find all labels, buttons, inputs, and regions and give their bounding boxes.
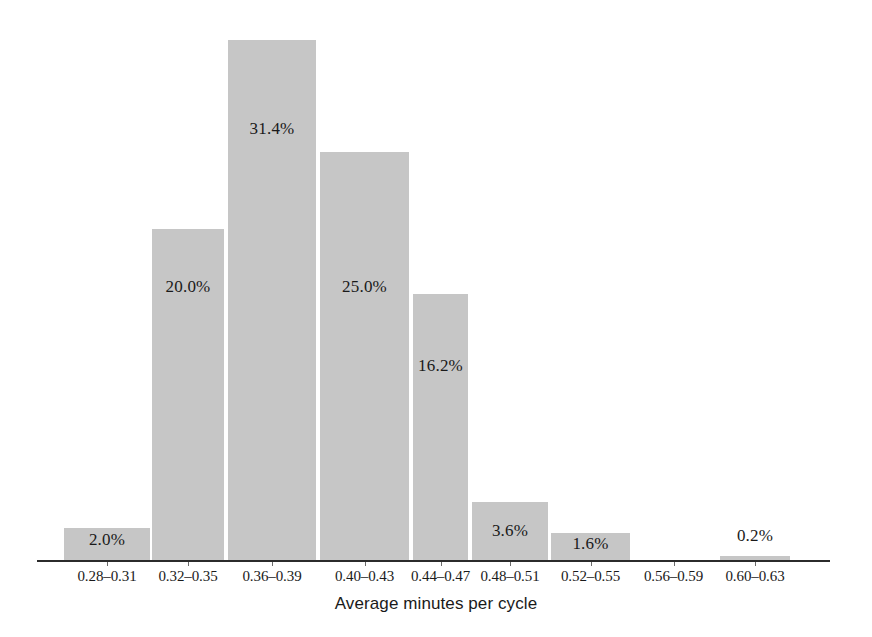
plot-area: 2.0%20.0%31.4%25.0%16.2%3.6%1.6%0.2%	[0, 0, 872, 637]
x-axis-tick-label: 0.60–0.63	[710, 568, 800, 585]
x-axis-tick	[755, 562, 756, 566]
bar-value-label: 0.2%	[720, 526, 790, 546]
bar-value-label: 20.0%	[152, 277, 224, 297]
x-axis-tick	[591, 562, 592, 566]
bar	[413, 294, 468, 560]
x-axis-tick-label: 0.28–0.31	[62, 568, 152, 585]
x-axis-tick-label: 0.56–0.59	[629, 568, 719, 585]
bar-value-label: 31.4%	[228, 119, 316, 139]
bar-value-label: 1.6%	[551, 534, 630, 554]
x-axis-tick-label: 0.36–0.39	[227, 568, 317, 585]
bar-value-label: 16.2%	[413, 356, 468, 376]
bar-value-label: 25.0%	[320, 277, 409, 297]
x-axis-line	[37, 560, 830, 562]
bar	[320, 152, 409, 560]
bar	[228, 40, 316, 560]
x-axis-tick	[188, 562, 189, 566]
bar-value-label: 2.0%	[64, 530, 150, 550]
x-axis-tick	[107, 562, 108, 566]
x-axis-tick-label: 0.32–0.35	[143, 568, 233, 585]
x-axis-tick	[365, 562, 366, 566]
histogram-figure: 2.0%20.0%31.4%25.0%16.2%3.6%1.6%0.2% 0.2…	[0, 0, 872, 637]
x-axis-tick	[441, 562, 442, 566]
bar-value-label: 3.6%	[472, 521, 548, 541]
x-axis-title-text: Average minutes per cycle	[335, 594, 538, 613]
x-axis-tick	[272, 562, 273, 566]
x-axis-tick	[674, 562, 675, 566]
x-axis-tick-label: 0.52–0.55	[546, 568, 636, 585]
x-axis-title: Average minutes per cycle	[0, 594, 872, 614]
x-axis-tick-label: 0.48–0.51	[465, 568, 555, 585]
x-axis-tick	[510, 562, 511, 566]
